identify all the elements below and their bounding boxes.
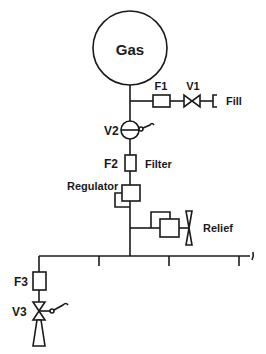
valve-v2-label: V2: [104, 124, 119, 138]
filter-f3: F3: [14, 272, 46, 290]
filter-f2-box: [125, 155, 136, 171]
gas-tank-label: Gas: [116, 41, 144, 58]
valve-v2: V2: [104, 121, 154, 139]
filter-f3-box: [33, 272, 46, 290]
valve-v3: V3: [12, 302, 68, 346]
fill-branch: F1 V1 Fill: [130, 80, 242, 107]
filter-f2: F2 Filter: [104, 155, 173, 171]
gas-tank: Gas: [93, 11, 167, 85]
gas-system-diagram: Gas F1 V1 Fill V2 F2 Filter Regulator: [0, 0, 266, 354]
relief-valve-box: [160, 219, 179, 237]
valve-v3-label: V3: [12, 305, 27, 319]
filter-f1: [153, 95, 170, 107]
filter-f1-label: F1: [155, 80, 168, 92]
fill-label: Fill: [226, 95, 242, 107]
regulator-label: Regulator: [67, 180, 119, 192]
filter-f2-label: F2: [104, 157, 118, 171]
relief-label: Relief: [203, 222, 233, 234]
regulator: Regulator: [67, 180, 140, 207]
fill-connector-icon: [213, 95, 217, 107]
filter-name-label: Filter: [145, 158, 173, 170]
distribution-header: [39, 252, 253, 272]
relief-vent-icon: [186, 211, 192, 228]
pipe-break-icon: [252, 252, 253, 260]
outlet-nozzle-icon: [33, 320, 45, 346]
valve-v3-handle-icon: [54, 304, 68, 311]
valve-v2-handle-icon: [143, 124, 154, 129]
relief-branch: Relief: [130, 211, 233, 245]
regulator-box: [122, 185, 140, 201]
valve-v1-label: V1: [186, 80, 199, 92]
filter-f3-label: F3: [14, 275, 28, 289]
